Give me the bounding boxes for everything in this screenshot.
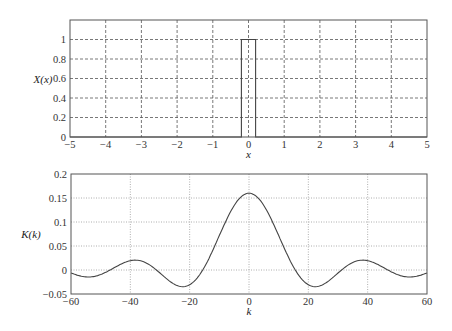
y-tick-label: 0.1 xyxy=(54,217,67,228)
x-tick-label: −5 xyxy=(64,139,75,150)
x-tick-label: 20 xyxy=(303,296,314,307)
x-tick-label: 2 xyxy=(317,139,322,150)
y-tick-label: 0.8 xyxy=(53,54,66,65)
y-tick-label: 0.6 xyxy=(53,73,66,84)
y-tick-label: 0.2 xyxy=(53,112,66,123)
x-tick-label: 1 xyxy=(282,139,287,150)
y-tick-label: 0 xyxy=(62,265,67,276)
y-axis-label: X(x) xyxy=(33,73,53,86)
y-tick-label: 0.2 xyxy=(54,169,67,180)
x-tick-label: −3 xyxy=(136,139,147,150)
x-tick-label: 40 xyxy=(362,296,373,307)
x-tick-label: −1 xyxy=(207,139,218,150)
x-axis-label: x xyxy=(245,148,251,160)
x-tick-label: −40 xyxy=(122,296,138,307)
x-axis-label: k xyxy=(247,305,253,317)
bottom-plot: −60−40−200204060−0.0500.050.10.150.2kK(k… xyxy=(20,169,432,318)
y-tick-label: 0.15 xyxy=(49,193,67,204)
y-tick-label: −0.05 xyxy=(43,289,67,300)
y-axis-label: K(k) xyxy=(20,228,41,241)
x-tick-label: −2 xyxy=(172,139,183,150)
x-tick-label: −20 xyxy=(181,296,197,307)
figure: −5−4−3−2−101234500.20.40.60.81xX(x) −60−… xyxy=(0,0,452,331)
y-tick-label: 0.4 xyxy=(53,93,67,104)
x-tick-label: 5 xyxy=(424,139,429,150)
y-tick-label: 0.05 xyxy=(49,241,67,252)
x-tick-label: 4 xyxy=(389,139,395,150)
y-tick-label: 0 xyxy=(61,132,66,143)
x-tick-label: 3 xyxy=(353,139,358,150)
x-tick-label: 60 xyxy=(422,296,433,307)
top-plot: −5−4−3−2−101234500.20.40.60.81xX(x) xyxy=(33,20,430,160)
x-tick-label: −4 xyxy=(100,139,112,150)
y-tick-label: 1 xyxy=(61,34,66,45)
